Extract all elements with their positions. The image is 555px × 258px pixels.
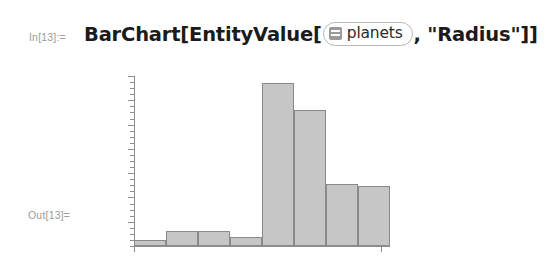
output-cell-label: Out[13]= (28, 209, 70, 221)
bar-chart[interactable] (128, 66, 390, 252)
bar-uranus[interactable] (326, 184, 358, 246)
expression-suffix: , "Radius"]] (414, 21, 538, 49)
expression-prefix: BarChart[EntityValue[ (84, 21, 322, 49)
bar-earth[interactable] (198, 231, 230, 246)
entity-class-icon (329, 27, 342, 40)
bar-series (134, 66, 390, 247)
bar-mars[interactable] (230, 237, 262, 246)
notebook-screenshot: In[13]:= BarChart[EntityValue[planets, "… (0, 0, 555, 258)
bar-mercury[interactable] (134, 240, 166, 246)
input-cell[interactable]: In[13]:= BarChart[EntityValue[planets, "… (0, 14, 555, 54)
bar-jupiter[interactable] (262, 83, 294, 246)
output-cell: Out[13]= (0, 60, 555, 258)
input-expression[interactable]: BarChart[EntityValue[planets, "Radius"]] (84, 20, 538, 49)
bar-venus[interactable] (166, 231, 198, 246)
bar-neptune[interactable] (358, 186, 390, 246)
input-cell-label: In[13]:= (29, 31, 66, 43)
bar-saturn[interactable] (294, 110, 326, 246)
entity-chip-planets[interactable]: planets (323, 22, 413, 46)
entity-chip-label: planets (347, 26, 403, 42)
